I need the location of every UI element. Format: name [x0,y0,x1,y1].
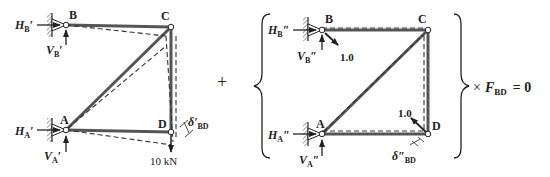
label-A-right: A [316,117,325,131]
label-VA-left: VA′ [44,149,61,165]
label-A-left: A [60,113,69,127]
node-B-left [63,22,69,28]
node-C-right [425,27,431,33]
truss-superposition-diagram: B C A D HB′ VB′ HA′ VA′ δ′BD 10 kN + [0,0,550,177]
node-C-left [168,24,174,30]
label-unit-force-D: 1.0 [398,107,412,119]
member-AD [66,130,171,132]
plus-sign: + [217,72,227,92]
node-A-right [319,131,325,137]
left-truss: B C A D HB′ VB′ HA′ VA′ δ′BD 10 kN [14,8,209,167]
member-AC [66,27,171,130]
right-brace [454,14,469,158]
label-B-left: B [69,8,77,22]
label-C-left: C [161,9,170,23]
equation: ×FBD= 0 [473,80,531,97]
label-unit-force-B: 1.0 [340,51,354,63]
label-HA-right: HA″ [267,128,290,144]
node-B-right [319,27,325,33]
unit-force-arrow-B [325,33,338,45]
node-D-right [425,131,431,137]
right-truss: B C A D HB″ VB″ 1.0 1.0 HA″ VA″ δ″BD [267,12,441,169]
node-A-left [63,127,69,133]
node-D-left [168,129,174,135]
label-D-left: D [158,117,167,131]
label-B-right: B [325,12,333,26]
label-HB-left: HB′ [14,18,33,34]
label-VB-left: VB′ [46,43,63,59]
load-label: 10 kN [150,155,177,167]
label-D-right: D [432,119,441,133]
member-BC [66,25,171,27]
label-VB-right: VB″ [297,49,317,65]
label-VA-right: VA″ [299,153,319,169]
delta-dimension-right [410,137,424,146]
label-delta-left: δ′BD [188,115,209,131]
label-delta-right: δ″BD [392,149,416,165]
label-C-right: C [418,12,427,26]
label-HA-left: HA′ [14,124,34,140]
label-HB-right: HB″ [267,23,289,39]
